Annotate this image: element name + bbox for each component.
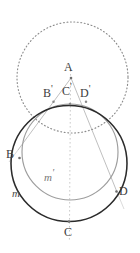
label-B-prime-mark: ': [51, 83, 53, 94]
label-D-prime-letter: D: [80, 86, 89, 100]
label-m-prime-mark: ': [52, 167, 54, 178]
label-point-C: C: [64, 226, 72, 238]
point-D-prime-dot: [85, 101, 88, 104]
label-point-A: A: [64, 61, 73, 73]
label-curve-m-prime: m': [44, 168, 54, 183]
label-C-prime-letter: C: [62, 84, 70, 98]
point-A-dot: [70, 77, 73, 80]
label-point-C-prime: C': [62, 82, 72, 97]
label-C-prime-mark: ': [70, 81, 72, 92]
geometry-figure: A B' C' D' B C D m m': [0, 0, 140, 253]
circle-m: [11, 106, 127, 222]
point-D-dot: [115, 190, 118, 193]
label-point-D-prime: D': [80, 84, 90, 99]
point-C-prime-dot: [69, 103, 72, 106]
point-C-dot: [68, 220, 71, 223]
label-point-D: D: [119, 185, 128, 197]
point-B-prime-dot: [52, 101, 55, 104]
geometry-canvas: [0, 0, 140, 253]
dotted-circle: [17, 22, 128, 133]
label-point-B: B: [6, 148, 14, 160]
label-B-prime-letter: B: [43, 86, 51, 100]
point-group: [18, 77, 118, 223]
ray-A-to-D: [71, 78, 117, 192]
label-point-B-prime: B': [43, 84, 53, 99]
label-curve-m: m: [12, 188, 20, 199]
point-B-dot: [18, 157, 21, 160]
label-D-prime-mark: ': [89, 83, 91, 94]
label-m-prime-letter: m: [44, 171, 52, 183]
